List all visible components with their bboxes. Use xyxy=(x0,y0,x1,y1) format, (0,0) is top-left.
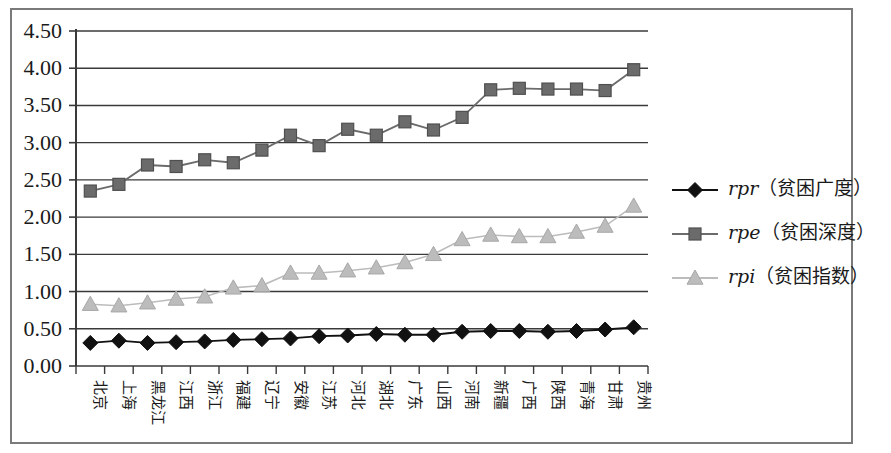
data-point-marker xyxy=(456,111,468,123)
data-point-marker xyxy=(256,144,268,156)
data-point-marker xyxy=(483,227,499,241)
x-tick-label: 安徽 xyxy=(292,380,310,410)
x-tick-label: 湖北 xyxy=(377,380,395,410)
data-point-marker xyxy=(626,320,641,335)
x-axis-ticks xyxy=(76,366,648,374)
x-tick-label: 河北 xyxy=(349,380,367,410)
data-point-marker xyxy=(342,123,354,135)
y-axis-tick-labels: 0.000.501.001.502.002.503.003.504.004.50 xyxy=(24,18,63,378)
y-axis-ticks xyxy=(69,31,76,366)
line-chart: 0.000.501.001.502.002.503.003.504.004.50… xyxy=(0,0,891,453)
y-tick-label: 0.50 xyxy=(24,316,63,341)
y-tick-label: 2.00 xyxy=(24,204,63,229)
data-point-marker xyxy=(140,335,155,350)
y-gridlines xyxy=(76,31,648,366)
x-tick-label: 贵州 xyxy=(635,380,653,410)
y-tick-label: 4.50 xyxy=(24,18,63,43)
data-point-marker xyxy=(84,185,96,197)
x-tick-label: 辽宁 xyxy=(263,380,281,410)
data-point-marker xyxy=(689,228,701,240)
x-tick-label: 河南 xyxy=(463,380,481,410)
data-point-marker xyxy=(598,322,613,337)
data-point-marker xyxy=(169,335,184,350)
data-point-marker xyxy=(340,328,355,343)
legend-item-rpe[interactable]: rpe（贫困深度） xyxy=(672,221,875,243)
data-point-marker xyxy=(254,278,270,292)
data-point-marker xyxy=(426,246,442,260)
series-line xyxy=(90,206,633,306)
x-tick-label: 新疆 xyxy=(492,380,510,410)
chart-container: 0.000.501.001.502.002.503.003.504.004.50… xyxy=(0,0,891,453)
y-tick-label: 1.00 xyxy=(24,279,63,304)
data-point-marker xyxy=(82,296,98,310)
data-point-marker xyxy=(283,265,299,279)
data-point-marker xyxy=(312,329,327,344)
x-axis-tick-labels: 北京上海黑龙江江西浙江福建辽宁安徽江苏河北湖北广东山西河南新疆广西陕西青海甘肃贵… xyxy=(91,380,652,425)
x-tick-label: 黑龙江 xyxy=(149,380,167,425)
y-tick-label: 3.00 xyxy=(24,130,63,155)
data-point-marker xyxy=(512,324,527,339)
legend-item-rpi[interactable]: rpi（贫困指数） xyxy=(672,265,869,287)
data-point-marker xyxy=(428,124,440,136)
series-rpe xyxy=(84,64,639,197)
y-tick-label: 2.50 xyxy=(24,167,63,192)
x-tick-label: 江苏 xyxy=(320,380,338,410)
data-point-marker xyxy=(513,82,525,94)
data-point-marker xyxy=(113,178,125,190)
data-point-marker xyxy=(283,331,298,346)
data-point-marker xyxy=(628,64,640,76)
legend-item-rpr[interactable]: rpr（贫困广度） xyxy=(672,177,872,199)
data-point-marker xyxy=(399,116,411,128)
data-point-marker xyxy=(455,324,470,339)
x-tick-label: 甘肃 xyxy=(606,380,624,410)
data-point-marker xyxy=(142,159,154,171)
data-point-marker xyxy=(83,335,98,350)
x-tick-label: 北京 xyxy=(91,380,109,410)
data-point-marker xyxy=(197,334,212,349)
data-point-marker xyxy=(111,333,126,348)
x-tick-label: 江西 xyxy=(177,380,195,410)
x-tick-label: 陕西 xyxy=(549,380,567,410)
data-point-marker xyxy=(170,160,182,172)
data-point-marker xyxy=(485,84,497,96)
x-tick-label: 福建 xyxy=(234,380,252,410)
x-tick-label: 浙江 xyxy=(206,380,224,410)
y-tick-label: 4.00 xyxy=(24,55,63,80)
data-point-marker xyxy=(569,324,584,339)
series-rpr xyxy=(83,320,641,351)
data-point-marker xyxy=(199,154,211,166)
chart-legend: rpr（贫困广度）rpe（贫困深度）rpi（贫困指数） xyxy=(672,177,875,287)
x-tick-label: 广东 xyxy=(406,380,424,410)
data-point-marker xyxy=(285,129,297,141)
legend-label-rpi: rpi（贫困指数） xyxy=(728,265,869,287)
y-tick-label: 0.00 xyxy=(24,353,63,378)
data-point-marker xyxy=(426,327,441,342)
y-tick-label: 3.50 xyxy=(24,92,63,117)
data-point-marker xyxy=(599,85,611,97)
data-point-marker xyxy=(542,83,554,95)
data-point-marker xyxy=(397,327,412,342)
data-point-marker xyxy=(688,183,703,198)
data-point-marker xyxy=(597,218,613,232)
data-point-marker xyxy=(483,324,498,339)
data-point-marker xyxy=(571,83,583,95)
data-point-marker xyxy=(226,332,241,347)
legend-label-rpr: rpr（贫困广度） xyxy=(728,177,872,199)
data-point-marker xyxy=(370,129,382,141)
x-tick-label: 上海 xyxy=(120,380,138,410)
y-tick-label: 1.50 xyxy=(24,241,63,266)
data-point-marker xyxy=(313,140,325,152)
x-tick-label: 广西 xyxy=(520,380,538,410)
data-point-marker xyxy=(227,157,239,169)
legend-label-rpe: rpe（贫困深度） xyxy=(728,221,875,243)
data-series-layer xyxy=(82,64,641,351)
data-point-marker xyxy=(540,324,555,339)
data-point-marker xyxy=(254,332,269,347)
x-tick-label: 青海 xyxy=(578,380,596,410)
x-tick-label: 山西 xyxy=(435,380,453,410)
data-point-marker xyxy=(626,198,642,212)
